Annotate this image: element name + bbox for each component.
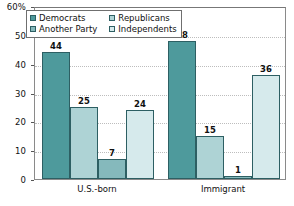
bar-value-label: 7 [109, 149, 115, 158]
bar-value-label: 24 [134, 100, 146, 109]
y-tick-label: 60% [7, 3, 26, 12]
bar: 25 [70, 107, 98, 179]
legend-item: Democrats [30, 13, 97, 23]
legend-swatch-icon [109, 26, 115, 32]
y-tick-label: 20 [15, 118, 26, 127]
y-tick-mark [31, 180, 34, 181]
y-tick-label: 50 [15, 31, 26, 40]
bar: 7 [98, 159, 126, 179]
legend-label: Democrats [39, 13, 85, 23]
x-axis: U.S.-bornImmigrant [34, 184, 286, 200]
legend-swatch-icon [30, 15, 36, 21]
bar-value-label: 25 [78, 97, 90, 106]
x-tick-label: U.S.-born [77, 184, 116, 194]
bar: 36 [252, 75, 280, 179]
legend-label: Independents [118, 24, 176, 34]
bar: 1 [224, 176, 252, 179]
bar-chart: 0102030405060% 44257244815136 DemocratsR… [0, 0, 294, 206]
bar-value-label: 1 [235, 166, 241, 175]
legend-item: Another Party [30, 24, 97, 34]
bar-value-label: 44 [50, 42, 62, 51]
chart-legend: DemocratsRepublicansAnother PartyIndepen… [26, 10, 182, 38]
legend-swatch-icon [30, 26, 36, 32]
bar: 15 [196, 136, 224, 179]
legend-label: Republicans [118, 13, 169, 23]
bar-value-label: 15 [204, 126, 216, 135]
bar-value-label: 36 [260, 65, 272, 74]
y-tick-label: 30 [15, 89, 26, 98]
bar: 24 [126, 110, 154, 179]
bar: 44 [42, 52, 70, 179]
x-tick-label: Immigrant [201, 184, 245, 194]
bar-group: 4815136 [168, 8, 280, 179]
legend-item: Independents [109, 24, 176, 34]
y-tick-label: 40 [15, 60, 26, 69]
legend-item: Republicans [109, 13, 176, 23]
y-tick-label: 0 [20, 176, 26, 185]
legend-swatch-icon [109, 15, 115, 21]
y-tick-label: 10 [15, 147, 26, 156]
legend-label: Another Party [39, 24, 97, 34]
bar: 48 [168, 41, 196, 179]
